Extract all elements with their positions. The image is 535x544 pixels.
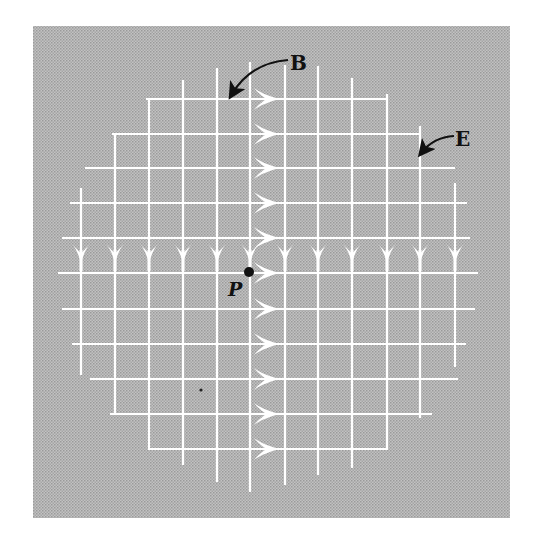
em-wave-field-diagram: B E P (0, 0, 535, 544)
label-E: E (455, 127, 470, 151)
stray-dot (199, 388, 202, 391)
label-P: P (227, 278, 243, 300)
point-P-marker (244, 267, 254, 277)
label-B: B (290, 51, 307, 75)
